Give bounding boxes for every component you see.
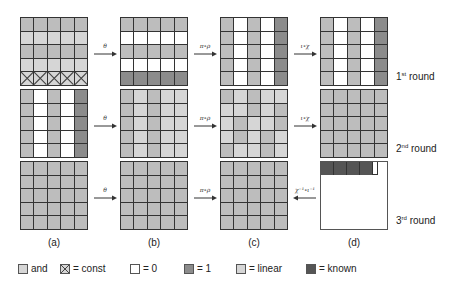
zero-cell: [361, 45, 373, 58]
and-cell: [348, 144, 360, 157]
zero-cell: [261, 45, 273, 58]
zero-cell: [175, 32, 187, 45]
and-cell: [221, 90, 233, 103]
one-cell: [161, 72, 173, 85]
and-cell: [321, 59, 333, 72]
linear-cell: [175, 131, 187, 144]
and-cell: [248, 72, 260, 85]
zero-cell: [61, 144, 73, 157]
and-cell: [334, 117, 346, 130]
zero-cell: [361, 32, 373, 45]
and-cell: [75, 45, 87, 58]
zero-cell: [334, 32, 346, 45]
and-cell: [248, 45, 260, 58]
and-cell: [348, 131, 360, 144]
one-cell: [148, 72, 160, 85]
and-cell: [34, 45, 46, 58]
one-cell: [75, 104, 87, 117]
and-cell: [361, 104, 373, 117]
legend-item-zero: = 0: [130, 263, 157, 274]
zero-cell: [134, 32, 146, 45]
and-cell: [148, 117, 160, 130]
column-label: (d): [339, 237, 369, 248]
and-cell: [48, 216, 60, 229]
linear-cell: [161, 144, 173, 157]
zero-cell: [361, 18, 373, 31]
and-cell: [134, 45, 146, 58]
known-cell: [360, 162, 373, 175]
linear-cell: [134, 117, 146, 130]
one-cell: [375, 32, 387, 45]
and-cell: [348, 72, 360, 85]
and-cell: [361, 131, 373, 144]
and-cell: [375, 144, 387, 157]
linear-cell: [234, 104, 246, 117]
and-cell: [161, 45, 173, 58]
known-cell: [321, 162, 334, 175]
linear-cell: [75, 59, 87, 72]
zero-cell: [161, 59, 173, 72]
and-cell: [175, 176, 187, 189]
and-cell: [121, 90, 133, 103]
and-cell: [261, 176, 273, 189]
and-cell: [334, 90, 346, 103]
and-cell: [134, 176, 146, 189]
and-cell: [275, 176, 287, 189]
and-cell: [375, 131, 387, 144]
const-cell: [48, 72, 60, 85]
and-cell: [48, 189, 60, 202]
legend-item-const: = const: [60, 263, 106, 274]
step-label: ι∘χ: [293, 114, 317, 121]
and-cell: [248, 104, 260, 117]
zero-cell: [61, 117, 73, 130]
legend-item-linear: = linear: [236, 263, 282, 274]
and-cell: [148, 162, 160, 175]
zero-cell: [261, 72, 273, 85]
state-grid: [120, 161, 188, 230]
and-cell: [275, 104, 287, 117]
and-cell: [148, 90, 160, 103]
and-cell: [48, 117, 60, 130]
linear-cell: [161, 117, 173, 130]
linear-cell: [275, 144, 287, 157]
state-grid: [220, 17, 288, 86]
linear-cell: [48, 59, 60, 72]
and-cell: [234, 203, 246, 216]
and-cell: [348, 18, 360, 31]
zero-cell: [34, 117, 46, 130]
state-grid: [320, 89, 388, 158]
zero-cell: [161, 32, 173, 45]
linear-cell: [175, 144, 187, 157]
and-cell: [348, 45, 360, 58]
step-label: θ: [93, 42, 117, 49]
and-cell: [121, 216, 133, 229]
zero-cell: [234, 32, 246, 45]
round-label: 1st round: [396, 71, 435, 82]
one-cell: [275, 18, 287, 31]
zero-cell: [334, 59, 346, 72]
and-cell: [148, 104, 160, 117]
and-cell: [21, 45, 33, 58]
linear-cell: [75, 32, 87, 45]
state-grid: [320, 17, 388, 86]
state-grid: [120, 17, 188, 86]
linear-cell: [234, 90, 246, 103]
step-label: π∘ρ: [193, 114, 217, 121]
zero-cell: [334, 72, 346, 85]
one-cell: [275, 59, 287, 72]
linear-cell: [34, 32, 46, 45]
column-label: (b): [139, 237, 169, 248]
zero-cell: [148, 59, 160, 72]
and-cell: [134, 203, 146, 216]
zero-cell: [361, 59, 373, 72]
and-cell: [348, 59, 360, 72]
and-cell: [275, 216, 287, 229]
arrow-right-icon: π∘ρ: [193, 188, 217, 204]
one-cell: [375, 45, 387, 58]
legend-label: = 1: [197, 263, 211, 274]
legend-item-one: = 1: [184, 263, 211, 274]
and-cell: [334, 104, 346, 117]
and-cell: [321, 72, 333, 85]
state-grid: [20, 17, 88, 86]
and-cell: [361, 117, 373, 130]
